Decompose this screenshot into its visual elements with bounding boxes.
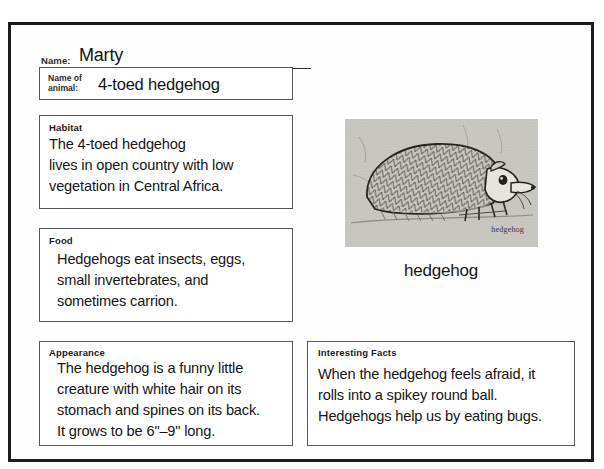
appearance-section[interactable]: Appearance The hedgehog is a funny littl… xyxy=(39,341,293,446)
food-title: Food xyxy=(49,235,73,246)
name-label: Name: xyxy=(41,55,71,66)
appearance-text: The hedgehog is a funny little creature … xyxy=(57,358,291,442)
animal-name-value[interactable]: 4-toed hedgehog xyxy=(98,75,220,94)
habitat-title: Habitat xyxy=(49,122,82,133)
animal-name-label: Name of animal: xyxy=(48,73,82,93)
hedgehog-drawing-icon: hedgehog xyxy=(345,119,538,247)
name-value[interactable]: Marty xyxy=(79,45,123,66)
animal-name-box[interactable]: Name of animal: 4-toed hedgehog xyxy=(39,67,293,100)
worksheet-page: Name: Marty Name of animal: 4-toed hedge… xyxy=(8,22,594,462)
appearance-title: Appearance xyxy=(49,347,105,358)
habitat-section[interactable]: Habitat The 4-toed hedgehog lives in ope… xyxy=(39,115,293,209)
interesting-facts-section[interactable]: Interesting Facts When the hedgehog feel… xyxy=(307,341,575,446)
habitat-text: The 4-toed hedgehog lives in open countr… xyxy=(49,134,289,197)
food-section[interactable]: Food Hedgehogs eat insects, eggs, small … xyxy=(39,228,293,322)
interesting-facts-title: Interesting Facts xyxy=(318,347,397,358)
food-text: Hedgehogs eat insects, eggs, small inver… xyxy=(57,249,289,312)
figure-inner-caption: hedgehog xyxy=(491,225,524,234)
illustration-block: hedgehog hedgehog xyxy=(341,119,541,304)
figure-caption: hedgehog xyxy=(341,261,541,281)
interesting-facts-text: When the hedgehog feels afraid, it rolls… xyxy=(318,364,570,427)
name-field-row: Name: Marty xyxy=(41,43,311,69)
